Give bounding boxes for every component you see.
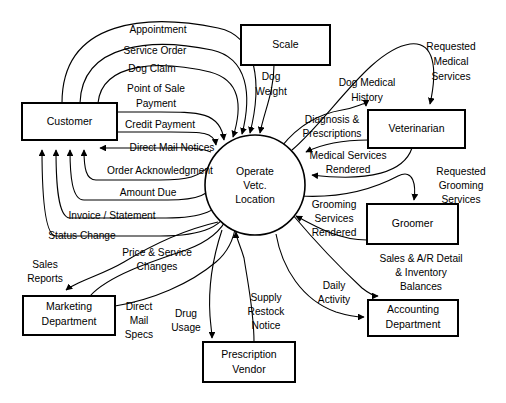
flow-label-dog-medical-history-line2: History	[351, 92, 384, 103]
process-label-line3: Location	[235, 193, 275, 205]
entity-label-groomer: Groomer	[392, 217, 434, 229]
entity-label-customer: Customer	[47, 115, 93, 127]
flow-label-direct-mail-specs-line2: Mail	[130, 315, 149, 326]
flow-label-sales-ar-detail-inventory-line3: Balances	[400, 281, 442, 292]
flow-label-requested-medical-services-line2: Medical	[433, 56, 468, 67]
flow-label-sales-reports-line2: Reports	[27, 273, 63, 284]
entity-label-marketing-department-line1: Marketing	[46, 300, 92, 312]
flow-label-grooming-services-rendered-line3: Rendered	[312, 227, 357, 238]
flow-label-credit-payment: Credit Payment	[125, 119, 195, 130]
flow-label-daily-activity-line2: Activity	[318, 294, 351, 305]
process-label-line2: Vetc.	[243, 179, 266, 191]
flow-label-supply-restock-notice-line1: Supply	[250, 292, 282, 303]
flow-label-amount-due: Amount Due	[120, 187, 177, 198]
flow-path-invoice-statement	[56, 150, 226, 218]
flow-label-supply-restock-notice-line2: Restock	[248, 306, 286, 317]
process-operate-vetc-location[interactable]: Operate Vetc. Location	[205, 135, 305, 235]
flow-label-grooming-services-rendered-line2: Services	[314, 213, 353, 224]
entity-marketing-department[interactable]: Marketing Department	[23, 296, 115, 335]
flow-label-requested-grooming-services-line2: Grooming	[439, 180, 484, 191]
flow-label-diagnosis-prescriptions-line2: Prescriptions	[303, 128, 362, 139]
flow-label-dog-weight-line2: Weight	[255, 86, 287, 97]
flow-label-drug-usage-line1: Drug	[175, 308, 197, 319]
flow-label-dog-claim: Dog Claim	[128, 63, 176, 74]
data-flow-diagram: Customer Scale Veterinarian Groomer Acco…	[0, 0, 506, 403]
entity-accounting-department[interactable]: Accounting Department	[368, 300, 458, 336]
flow-path-dog-medical-history	[282, 104, 366, 146]
flow-label-price-service-changes-line1: Price & Service	[122, 247, 192, 258]
entity-label-accounting-department-line1: Accounting	[387, 303, 439, 315]
entity-label-prescription-vendor-line1: Prescription	[221, 348, 277, 360]
flow-label-drug-usage-line2: Usage	[171, 322, 201, 333]
flow-label-requested-medical-services-line3: Services	[431, 71, 470, 82]
flow-label-point-of-sale-payment-line1: Point of Sale	[127, 83, 185, 94]
entity-scale[interactable]: Scale	[241, 25, 330, 65]
flow-label-sales-ar-detail-inventory-line1: Sales & A/R Detail	[379, 253, 462, 264]
entity-label-marketing-department-line2: Department	[42, 315, 97, 327]
entity-label-veterinarian: Veterinarian	[388, 122, 444, 134]
flow-label-requested-medical-services-line1: Requested	[426, 41, 476, 52]
flow-label-requested-grooming-services-line1: Requested	[436, 166, 486, 177]
flow-path-requested-grooming-services	[300, 174, 415, 200]
entity-label-scale: Scale	[272, 38, 298, 50]
flow-label-direct-mail-specs-line3: Specs	[125, 329, 153, 340]
flow-label-point-of-sale-payment-line2: Payment	[136, 98, 176, 109]
flow-label-medical-services-rendered-line2: Rendered	[326, 164, 371, 175]
flow-label-invoice-statement: Invoice / Statement	[68, 210, 155, 221]
entity-veterinarian[interactable]: Veterinarian	[368, 110, 465, 148]
flow-label-daily-activity-line1: Daily	[323, 280, 347, 291]
flow-label-diagnosis-prescriptions-line1: Diagnosis &	[305, 114, 360, 125]
flow-label-requested-grooming-services-line3: Services	[441, 194, 480, 205]
flow-label-appointment: Appointment	[129, 24, 186, 35]
flow-label-status-change: Status Change	[48, 230, 116, 241]
flow-label-direct-mail-notices: Direct Mail Notices	[130, 142, 215, 153]
entity-label-accounting-department-line2: Department	[386, 318, 441, 330]
flow-label-supply-restock-notice-line3: Notice	[252, 320, 281, 331]
flow-label-sales-ar-detail-inventory-line2: & Inventory	[395, 267, 447, 278]
flow-label-sales-reports-line1: Sales	[32, 259, 57, 270]
flow-label-service-order: Service Order	[124, 45, 187, 56]
flow-label-medical-services-rendered-line1: Medical Services	[310, 150, 387, 161]
entity-label-prescription-vendor-line2: Vendor	[232, 363, 266, 375]
flow-label-dog-weight-line1: Dog	[262, 71, 281, 82]
entity-customer[interactable]: Customer	[22, 103, 117, 140]
flow-label-grooming-services-rendered-line1: Grooming	[312, 199, 357, 210]
entity-prescription-vendor[interactable]: Prescription Vendor	[203, 342, 295, 382]
entity-groomer[interactable]: Groomer	[367, 204, 458, 244]
diagram-canvas: Customer Scale Veterinarian Groomer Acco…	[0, 0, 506, 403]
flow-label-order-acknowledgment: Order Acknowledgment	[107, 165, 213, 176]
flow-path-drug-usage	[210, 230, 222, 338]
process-label-line1: Operate	[236, 165, 274, 177]
flow-label-price-service-changes-line2: Changes	[137, 261, 178, 272]
flow-label-direct-mail-specs-line1: Direct	[126, 301, 153, 312]
flow-label-dog-medical-history-line1: Dog Medical	[339, 77, 396, 88]
